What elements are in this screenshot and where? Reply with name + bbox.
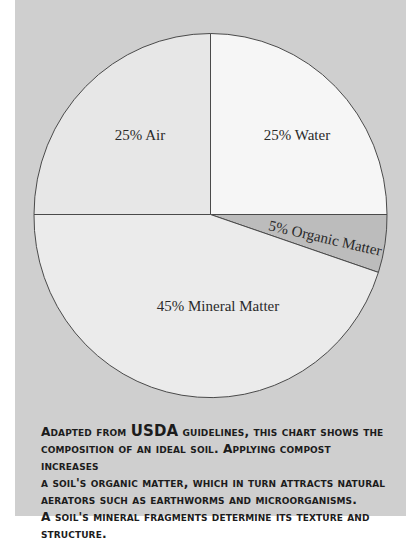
caption-usda: USDA — [131, 422, 178, 440]
figure-caption: Adapted from USDA guidelines, this chart… — [41, 423, 391, 542]
slice-air — [34, 34, 211, 215]
label-mineral-matter: 45% Mineral Matter — [157, 298, 279, 314]
caption-line-4: aerators such as earthworms and microorg… — [41, 492, 391, 509]
caption-line-2: composition of an ideal soil. Applying c… — [41, 441, 391, 475]
label-air: 25% Air — [115, 127, 165, 143]
caption-text: guidelines, this chart shows the — [178, 425, 383, 439]
caption-line-3: a soil's organic matter, which in turn a… — [41, 475, 391, 492]
caption-text: Adapted from — [41, 425, 131, 439]
label-water: 25% Water — [264, 127, 330, 143]
slice-water — [211, 34, 388, 215]
caption-line-6: structure. — [41, 526, 391, 542]
pie-chart: 25% Air 25% Water 5% Organic Matter 45% … — [0, 0, 412, 410]
caption-line-1: Adapted from USDA guidelines, this chart… — [41, 423, 391, 441]
caption-line-5: A soil's mineral fragments determine its… — [41, 509, 391, 526]
